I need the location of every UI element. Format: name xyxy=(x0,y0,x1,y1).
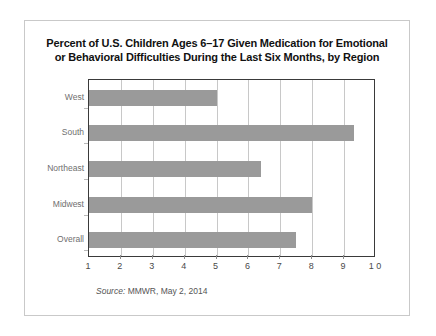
y-axis-label-northeast: Northeast xyxy=(20,163,84,173)
bars-layer xyxy=(89,80,374,256)
x-axis-label-5: 5 xyxy=(213,260,218,272)
x-axis-label-10: 1 0 xyxy=(369,260,382,272)
x-axis-label-2: 2 xyxy=(117,260,122,272)
x-axis-label-7: 7 xyxy=(277,260,282,272)
x-axis-tick xyxy=(247,255,248,259)
bar xyxy=(89,197,312,213)
x-axis-label-3: 3 xyxy=(149,260,154,272)
y-axis-label-overall: Overall xyxy=(20,234,84,244)
x-axis-label-6: 6 xyxy=(245,260,250,272)
source-text: MMWR, May 2, 2014 xyxy=(125,286,207,296)
x-axis-label-8: 8 xyxy=(309,260,314,272)
y-axis-label-south: South xyxy=(20,127,84,137)
bar xyxy=(89,90,217,106)
bar xyxy=(89,232,296,248)
x-axis-tick xyxy=(184,255,185,259)
x-axis-tick xyxy=(279,255,280,259)
x-axis-label-4: 4 xyxy=(181,260,186,272)
x-axis-label-1: 1 xyxy=(85,260,90,272)
chart-title-line-1: Percent of U.S. Children Ages 6–17 Given… xyxy=(34,36,400,50)
x-axis-tick xyxy=(216,255,217,259)
x-axis-tick xyxy=(120,255,121,259)
chart-figure: Percent of U.S. Children Ages 6–17 Given… xyxy=(0,0,436,336)
y-axis-category-labels: WestSouthNortheastMidwestOverall xyxy=(20,79,84,257)
y-axis-label-midwest: Midwest xyxy=(20,199,84,209)
bar xyxy=(89,161,261,177)
source-prefix: Source: xyxy=(96,286,125,296)
plot-area xyxy=(88,79,375,257)
chart-title: Percent of U.S. Children Ages 6–17 Given… xyxy=(34,36,400,64)
x-axis-tick xyxy=(311,255,312,259)
x-axis-tick-labels: 1234567891 0 xyxy=(88,260,375,274)
x-axis-tick xyxy=(343,255,344,259)
x-axis-label-9: 9 xyxy=(341,260,346,272)
y-axis-label-west: West xyxy=(20,92,84,102)
bar xyxy=(89,125,354,141)
chart-title-line-2: or Behavioral Difficulties During the La… xyxy=(34,50,400,64)
source-note: Source: MMWR, May 2, 2014 xyxy=(96,286,207,296)
x-axis-tick xyxy=(152,255,153,259)
